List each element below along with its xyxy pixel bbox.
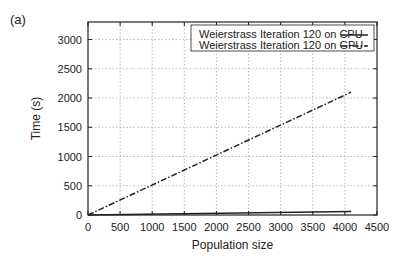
x-tick-label: 500	[111, 221, 129, 233]
x-tick-label: 3500	[301, 221, 325, 233]
x-tick-label: 1500	[172, 221, 196, 233]
x-tick-label: 3000	[268, 221, 292, 233]
y-axis-label: Time (s)	[29, 97, 43, 141]
y-tick-label: 500	[64, 180, 82, 192]
x-tick-label: 2000	[204, 221, 228, 233]
y-tick-label: 1500	[58, 121, 82, 133]
y-tick-label: 2000	[58, 92, 82, 104]
line-chart: 0500100015002000250030003500400045000500…	[0, 0, 409, 265]
x-axis-label: Population size	[192, 238, 274, 252]
legend-label: Weierstrass Iteration 120 on GPU	[199, 39, 363, 51]
y-tick-label: 1000	[58, 151, 82, 163]
y-tick-label: 0	[76, 209, 82, 221]
x-tick-label: 0	[85, 221, 91, 233]
x-tick-label: 1000	[140, 221, 164, 233]
x-tick-label: 4000	[333, 221, 357, 233]
series-line	[88, 92, 351, 215]
y-tick-label: 3000	[58, 34, 82, 46]
y-tick-label: 2500	[58, 63, 82, 75]
x-tick-label: 4500	[365, 221, 389, 233]
x-tick-label: 2500	[236, 221, 260, 233]
